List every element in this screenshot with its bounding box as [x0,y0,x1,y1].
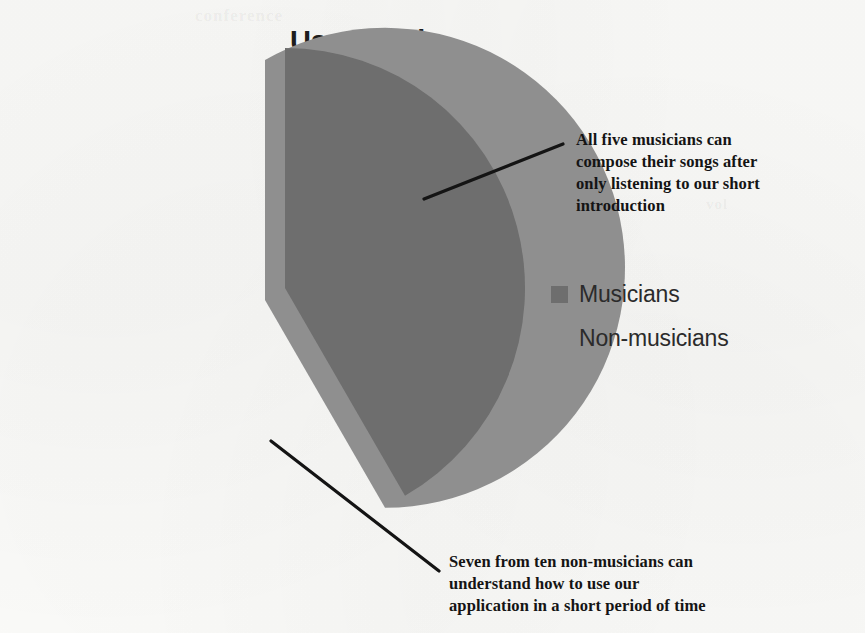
legend-label-non-musicians: Non-musicians [579,325,729,352]
legend-item-non-musicians[interactable]: Non-musicians [551,316,729,360]
legend-swatch-musicians [551,286,568,303]
legend: Musicians Non-musicians [551,272,729,360]
annotation-musicians: All five musicians can compose their son… [576,129,856,217]
annotation-non-musicians: Seven from ten non-musicians can underst… [449,551,849,617]
legend-swatch-non-musicians [551,330,568,347]
pie-chart-graphic [0,0,865,633]
legend-label-musicians: Musicians [579,281,679,308]
legend-item-musicians[interactable]: Musicians [551,272,729,316]
pie-chart-figure: conference vol User Study Musicians Non-… [0,0,865,633]
